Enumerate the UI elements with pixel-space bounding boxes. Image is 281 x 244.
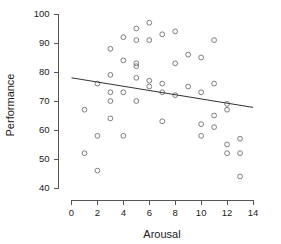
- data-point: [212, 113, 217, 118]
- regression-trend-line: [72, 78, 254, 108]
- data-point: [173, 29, 178, 34]
- data-point: [108, 46, 113, 51]
- plot-canvas: 405060708090100 02468101214 Arousal Perf…: [0, 0, 281, 244]
- data-point: [212, 81, 217, 86]
- data-point: [95, 133, 100, 138]
- data-point: [82, 151, 87, 156]
- x-tick-label: 4: [121, 207, 126, 218]
- y-tick-label: 60: [39, 124, 50, 135]
- y-tick-label: 80: [39, 66, 50, 77]
- data-point: [238, 174, 243, 179]
- data-point: [212, 125, 217, 130]
- x-tick-label: 0: [69, 207, 74, 218]
- data-point: [134, 99, 139, 104]
- y-tick-label: 50: [39, 153, 50, 164]
- data-point: [121, 90, 126, 95]
- data-point: [134, 75, 139, 80]
- data-point: [108, 90, 113, 95]
- data-point: [108, 73, 113, 78]
- y-tick-label: 70: [39, 95, 50, 106]
- data-point: [212, 38, 217, 43]
- y-axis-title: Performance: [4, 74, 16, 137]
- data-point: [173, 61, 178, 66]
- x-tick-label: 8: [173, 207, 178, 218]
- data-point: [186, 52, 191, 57]
- data-point: [134, 64, 139, 69]
- data-point: [225, 142, 230, 147]
- data-point: [108, 116, 113, 121]
- x-tick-label: 10: [196, 207, 207, 218]
- data-point: [199, 90, 204, 95]
- data-point: [108, 99, 113, 104]
- data-point: [225, 107, 230, 112]
- data-point: [147, 78, 152, 83]
- data-point: [160, 81, 165, 86]
- data-point: [199, 133, 204, 138]
- x-tick-label: 12: [222, 207, 233, 218]
- data-point: [238, 151, 243, 156]
- data-point: [147, 84, 152, 89]
- data-point: [121, 133, 126, 138]
- x-tick-label: 6: [147, 207, 152, 218]
- data-point: [82, 107, 87, 112]
- data-point: [95, 168, 100, 173]
- data-point: [160, 32, 165, 37]
- data-point: [147, 38, 152, 43]
- data-point: [238, 136, 243, 141]
- data-point: [160, 119, 165, 124]
- data-point: [134, 38, 139, 43]
- data-point: [134, 26, 139, 31]
- y-tick-label: 90: [39, 37, 50, 48]
- x-tick-label: 14: [248, 207, 259, 218]
- data-point: [199, 55, 204, 60]
- data-point: [147, 20, 152, 25]
- data-point: [225, 151, 230, 156]
- x-tick-label: 2: [95, 207, 100, 218]
- data-point-group: [82, 20, 242, 179]
- scatter-plot-figure: 405060708090100 02468101214 Arousal Perf…: [0, 0, 281, 244]
- x-tick-group: 02468101214: [69, 200, 258, 218]
- y-tick-label: 40: [39, 182, 50, 193]
- y-tick-group: 405060708090100: [34, 8, 59, 193]
- data-point: [121, 35, 126, 40]
- y-tick-label: 100: [34, 8, 50, 19]
- data-point: [121, 58, 126, 63]
- data-point: [199, 122, 204, 127]
- x-axis-title: Arousal: [143, 228, 180, 240]
- data-point: [186, 84, 191, 89]
